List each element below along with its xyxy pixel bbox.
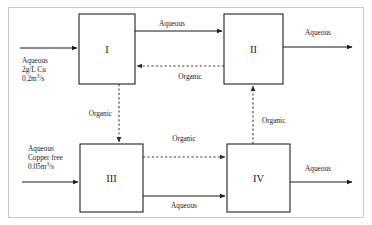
stream-label-organic-1-to-3: Organic: [89, 109, 113, 118]
unit-label-1: I: [105, 44, 109, 55]
stream-label-organic-4-to-2: Organic: [262, 116, 286, 125]
diagram-outer-frame: [9, 8, 364, 218]
feed-label-copperfree-line2: Copper free: [28, 153, 63, 162]
stream-label-aqueous-3-to-4: Aqueous: [171, 201, 197, 210]
flow-diagram-canvas: I II III IV Aqueous Aqueous Organic Orga…: [0, 0, 372, 225]
unit-label-3: III: [106, 173, 117, 184]
feed-label-aqueous-line3: 0.2m3/s: [22, 73, 44, 83]
stream-label-organic-2-to-1: Organic: [178, 72, 202, 81]
feed-label-aqueous-line2: 2g/L Cu: [22, 65, 46, 74]
stream-label-aqueous-out-4: Aqueous: [305, 164, 331, 173]
feed-flow-value-top: 0.2m: [22, 74, 37, 83]
feed-label-copperfree-line3: 0.05m3/s: [28, 161, 54, 171]
process-flow-diagram: I II III IV Aqueous Aqueous Organic Orga…: [0, 0, 372, 225]
stream-label-organic-3-to-4: Organic: [172, 134, 196, 143]
stream-label-aqueous-out-2: Aqueous: [305, 28, 331, 37]
unit-label-2: II: [250, 44, 257, 55]
unit-label-4: IV: [253, 173, 264, 184]
stream-label-aqueous-1-to-2: Aqueous: [159, 19, 185, 28]
feed-label-copperfree-line1: Aqueous: [28, 144, 54, 153]
feed-flow-unit-bottom: /s: [49, 162, 54, 171]
feed-label-aqueous-line1: Aqueous: [22, 56, 48, 65]
feed-flow-value-bottom: 0.05m: [28, 162, 47, 171]
feed-flow-unit-top: /s: [39, 74, 44, 83]
